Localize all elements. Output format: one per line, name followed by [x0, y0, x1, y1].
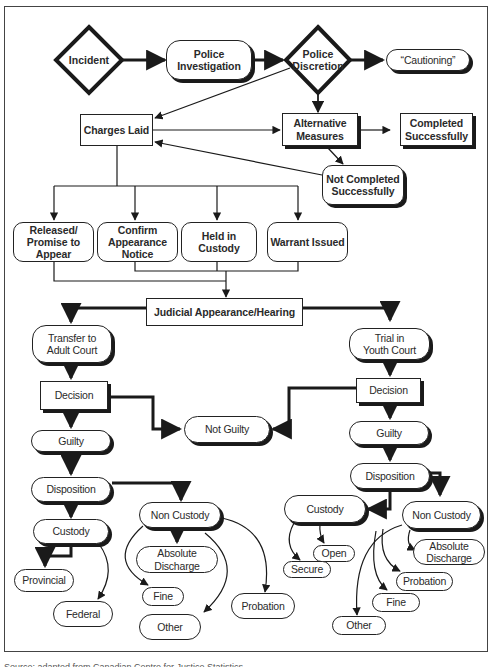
node-incident: Incident: [56, 50, 122, 70]
node-disposition-right: Disposition: [350, 463, 430, 489]
node-other-right: Other: [332, 616, 386, 635]
node-decision-right: Decision: [356, 378, 421, 403]
node-not-guilty: Not Guilty: [184, 416, 270, 443]
node-guilty-right: Guilty: [349, 421, 429, 445]
node-confirm-appearance-notice: Confirm Appearance Notice: [97, 222, 178, 262]
node-absolute-discharge-left: Absolute Discharge: [136, 546, 218, 573]
node-fine-right: Fine: [372, 593, 420, 612]
node-police-discretion: Police Discretion: [286, 45, 350, 75]
node-held-in-custody: Held in Custody: [181, 222, 257, 262]
node-open: Open: [313, 545, 355, 562]
node-decision-left: Decision: [40, 381, 108, 410]
node-disposition-left: Disposition: [31, 477, 111, 502]
node-police-investigation: Police Investigation: [166, 40, 252, 80]
node-completed-successfully: Completed Successfully: [400, 113, 473, 146]
node-federal: Federal: [53, 601, 113, 627]
node-judicial-appearance-hearing: Judicial Appearance/Hearing: [146, 298, 303, 326]
node-provincial: Provincial: [14, 569, 74, 592]
figure-caption: Source: adapted from Canadian Centre for…: [4, 660, 243, 667]
node-custody-right: Custody: [284, 495, 366, 523]
node-non-custody-left: Non Custody: [139, 502, 221, 528]
node-other-left: Other: [139, 614, 201, 640]
node-secure: Secure: [283, 561, 331, 578]
node-custody-left: Custody: [33, 519, 109, 544]
node-charges-laid: Charges Laid: [80, 114, 153, 146]
node-probation-right: Probation: [396, 572, 453, 591]
node-fine-left: Fine: [142, 587, 184, 606]
node-trial-in-youth-court: Trial in Youth Court: [349, 328, 430, 360]
node-not-completed-successfully: Not Completed Successfully: [322, 165, 404, 205]
flowchart-canvas: Incident Police Discretion Police Invest…: [0, 0, 492, 667]
node-non-custody-right: Non Custody: [402, 501, 481, 529]
node-probation-left: Probation: [231, 593, 295, 619]
node-absolute-discharge-right: Absolute Discharge: [413, 539, 485, 565]
node-warrant-issued: Warrant Issued: [267, 222, 348, 262]
node-alternative-measures: Alternative Measures: [282, 113, 358, 146]
node-guilty-left: Guilty: [31, 430, 111, 452]
node-cautioning: “Cautioning”: [386, 49, 470, 71]
node-transfer-to-adult-court: Transfer to Adult Court: [32, 325, 112, 363]
node-released-promise-to-appear: Released/ Promise to Appear: [13, 222, 94, 262]
